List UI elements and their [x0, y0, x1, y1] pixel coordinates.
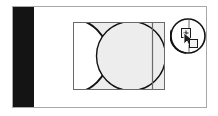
center-circle — [97, 22, 166, 90]
shape-canvas — [73, 22, 165, 90]
canvas-screen — [0, 0, 218, 116]
black-side-panel — [13, 7, 34, 107]
compound-shape[interactable] — [73, 22, 165, 90]
selection-handle[interactable] — [189, 39, 198, 48]
